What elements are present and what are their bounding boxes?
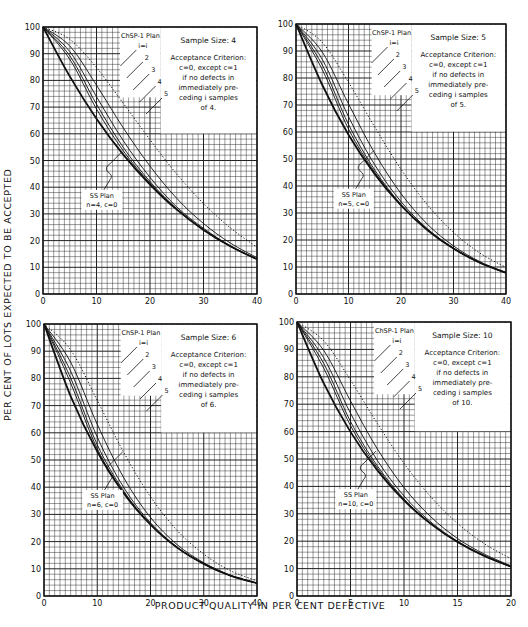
svg-text:40: 40	[31, 483, 41, 492]
panel-title: Sample Size: 5	[430, 33, 486, 42]
svg-text:80: 80	[31, 374, 41, 383]
svg-text:20: 20	[283, 236, 293, 245]
svg-text:if no defects in: if no defects in	[432, 71, 484, 79]
svg-text:80: 80	[283, 74, 293, 83]
svg-text:15: 15	[452, 599, 462, 608]
panel-title: Sample Size: 6	[181, 333, 237, 342]
svg-text:ceding i samples: ceding i samples	[179, 94, 238, 102]
ss-leader-line	[104, 152, 122, 190]
plan-label: ChSP-1 Plan	[121, 32, 160, 40]
oc-curves-figure: 0102030405060708090100010203040Sample Si…	[0, 0, 528, 627]
svg-text:Acceptance Criterion:: Acceptance Criterion:	[171, 54, 247, 62]
svg-text:90: 90	[31, 347, 41, 356]
chart-sample-size-10: 010203040506070809010005101520Sample Siz…	[264, 300, 528, 610]
svg-text:5: 5	[164, 90, 168, 98]
svg-text:30: 30	[284, 510, 294, 519]
svg-text:Acceptance Criterion:: Acceptance Criterion:	[425, 349, 501, 357]
ss-plan-label: SS Plan	[344, 491, 368, 499]
plan-label: ChSP-1 Plan	[372, 29, 411, 37]
svg-text:60: 60	[31, 429, 41, 438]
svg-text:40: 40	[284, 482, 294, 491]
svg-text:20: 20	[506, 599, 516, 608]
svg-text:if no defects in: if no defects in	[182, 74, 234, 82]
svg-text:90: 90	[30, 50, 40, 59]
ss-plan-label: SS Plan	[342, 191, 366, 199]
svg-text:100: 100	[25, 23, 40, 32]
x-axis-label: PRODUCT QUALITY IN PER CENT DEFECTIVE	[150, 600, 390, 611]
svg-text:3: 3	[151, 66, 155, 74]
svg-text:70: 70	[30, 103, 40, 112]
svg-text:3: 3	[152, 363, 156, 371]
svg-text:i=i: i=i	[392, 337, 401, 345]
svg-text:80: 80	[30, 76, 40, 85]
svg-text:50: 50	[284, 455, 294, 464]
svg-text:10: 10	[31, 565, 41, 574]
plan-label: ChSP-1 Plan	[375, 327, 414, 335]
ss-plan-label: SS Plan	[90, 192, 114, 200]
svg-text:90: 90	[283, 47, 293, 56]
svg-text:of 10.: of 10.	[452, 399, 472, 407]
plan-label: ChSP-1 Plan	[121, 329, 160, 337]
chart-sample-size-6: 0102030405060708090100010203040Sample Si…	[0, 300, 264, 610]
svg-text:c=0, except c=1: c=0, except c=1	[179, 64, 238, 72]
svg-text:immediately pre-: immediately pre-	[428, 81, 488, 89]
svg-text:0: 0	[41, 599, 46, 608]
svg-text:10: 10	[30, 263, 40, 272]
svg-text:40: 40	[30, 183, 40, 192]
svg-text:immediately pre-: immediately pre-	[432, 379, 492, 387]
svg-text:30: 30	[30, 210, 40, 219]
chart-sample-size-5: 0102030405060708090100010203040Sample Si…	[264, 0, 528, 310]
svg-text:i=i: i=i	[390, 39, 399, 47]
svg-text:10: 10	[399, 599, 409, 608]
svg-text:50: 50	[283, 155, 293, 164]
svg-text:50: 50	[30, 157, 40, 166]
svg-text:c=0, except c=1: c=0, except c=1	[179, 361, 238, 369]
svg-text:60: 60	[284, 428, 294, 437]
svg-text:Acceptance Criterion:: Acceptance Criterion:	[420, 51, 496, 59]
svg-text:70: 70	[283, 101, 293, 110]
svg-text:2: 2	[399, 349, 403, 357]
svg-text:50: 50	[31, 456, 41, 465]
svg-text:80: 80	[284, 373, 294, 382]
panel-title: Sample Size: 10	[432, 331, 493, 340]
svg-text:20: 20	[284, 537, 294, 546]
svg-text:of 4.: of 4.	[201, 104, 217, 112]
svg-text:if no defects in: if no defects in	[183, 371, 235, 379]
svg-text:ceding i samples: ceding i samples	[179, 391, 238, 399]
svg-text:of 6.: of 6.	[201, 401, 217, 409]
svg-text:0: 0	[288, 290, 293, 299]
svg-text:i=i: i=i	[138, 42, 147, 50]
svg-text:40: 40	[283, 182, 293, 191]
svg-text:2: 2	[145, 351, 149, 359]
svg-text:2: 2	[396, 51, 400, 59]
svg-text:c=0, except c=1: c=0, except c=1	[429, 61, 488, 69]
svg-text:70: 70	[284, 400, 294, 409]
svg-text:30: 30	[31, 510, 41, 519]
svg-text:immediately pre-: immediately pre-	[178, 84, 238, 92]
svg-text:3: 3	[402, 63, 406, 71]
svg-text:5: 5	[415, 87, 419, 95]
svg-text:60: 60	[283, 128, 293, 137]
svg-text:20: 20	[31, 538, 41, 547]
svg-text:ceding i samples: ceding i samples	[433, 389, 492, 397]
svg-text:100: 100	[279, 318, 294, 327]
chart-sample-size-4: 0102030405060708090100010203040Sample Si…	[0, 0, 264, 310]
svg-text:0: 0	[35, 290, 40, 299]
svg-text:immediately pre-: immediately pre-	[179, 381, 239, 389]
y-axis-label: PER CENT OF LOTS EXPECTED TO BE ACCEPTED	[2, 150, 22, 440]
ss-plan-label: n=6, c=0	[87, 501, 118, 509]
panel-title: Sample Size: 4	[181, 36, 237, 45]
svg-text:5: 5	[164, 387, 168, 395]
svg-text:4: 4	[408, 75, 412, 83]
svg-text:3: 3	[405, 361, 409, 369]
svg-text:4: 4	[412, 373, 416, 381]
svg-text:60: 60	[30, 130, 40, 139]
svg-text:90: 90	[284, 345, 294, 354]
svg-text:100: 100	[278, 20, 293, 29]
ss-plan-label: n=10, c=0	[338, 500, 373, 508]
svg-text:30: 30	[283, 209, 293, 218]
svg-text:4: 4	[158, 375, 162, 383]
svg-text:Acceptance Criterion:: Acceptance Criterion:	[171, 351, 247, 359]
ss-plan-label: SS Plan	[90, 492, 114, 500]
caption-fragment	[290, 615, 520, 623]
